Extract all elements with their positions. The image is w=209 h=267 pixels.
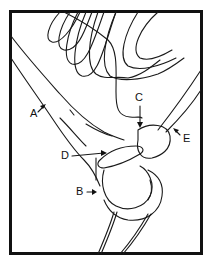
arrowhead-e	[173, 128, 179, 133]
pointer-arrows	[38, 104, 180, 195]
label-b: B	[76, 186, 83, 197]
label-a: A	[30, 108, 37, 119]
top-loops	[48, 12, 184, 118]
arrow-d	[72, 153, 104, 156]
diagram-drawing	[0, 0, 209, 267]
joint	[96, 125, 170, 220]
label-e: E	[183, 133, 190, 144]
right-bone	[158, 70, 201, 132]
label-d: D	[61, 150, 69, 161]
label-c: C	[135, 92, 143, 103]
diagram-figure: A B C D E	[0, 0, 209, 267]
arrowhead-b	[92, 189, 97, 195]
